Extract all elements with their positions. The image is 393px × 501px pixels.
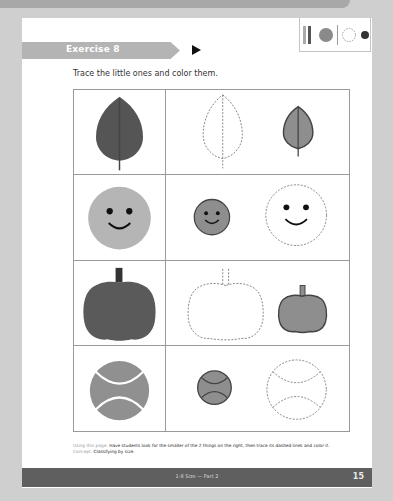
dashed-tennis-ball-icon [267, 360, 326, 419]
exercise-grid [73, 89, 350, 432]
small-leaf-icon [283, 107, 312, 157]
dashed-leaf-icon [203, 95, 242, 168]
using-text: Have students look for the smaller of th… [109, 443, 329, 448]
leaf-large-cell [74, 90, 166, 175]
concept-label: Concept: [73, 449, 92, 454]
large-pumpkin-icon [74, 261, 165, 345]
top-header-band [0, 0, 350, 8]
small-tennis-ball-icon [198, 371, 232, 405]
large-smiley-icon [74, 175, 165, 259]
dashed-trace-circle-icon [341, 27, 357, 43]
face-large-cell [74, 175, 166, 260]
large-tennis-ball-icon [74, 346, 165, 431]
ball-pair [166, 346, 349, 431]
section-title: 1-8 Size — Part 2 [22, 473, 372, 479]
pumpkin-compare-cell [166, 261, 349, 346]
ball-compare-cell [166, 346, 349, 431]
dashed-pumpkin-icon [188, 268, 263, 339]
activity-icons-box [299, 18, 371, 52]
exercise-label: Exercise 8 [66, 44, 120, 54]
face-compare-cell [166, 175, 349, 260]
dashed-smiley-icon [266, 185, 327, 246]
leaf-pair [166, 90, 349, 174]
small-smiley-icon [194, 200, 229, 235]
ball-large-cell [74, 346, 166, 431]
icon-divider [337, 25, 338, 45]
using-label: Using this page: [73, 443, 108, 448]
page-footer: 1-8 Size — Part 2 15 [22, 468, 372, 487]
pumpkin-pair [166, 261, 349, 345]
face-pair [166, 175, 349, 259]
small-dark-circle-icon [360, 30, 370, 40]
color-fill-circle-icon [318, 27, 334, 43]
small-pumpkin-icon [279, 285, 327, 332]
large-leaf-icon [74, 90, 165, 174]
teacher-note: Using this page: Have students look for … [73, 443, 330, 455]
pumpkin-large-cell [74, 261, 166, 346]
pencil-crayon-icon [301, 25, 315, 45]
leaf-compare-cell [166, 90, 349, 175]
concept-text: Classifying by size. [94, 449, 135, 454]
instruction-text: Trace the little ones and color them. [73, 69, 218, 78]
arrow-right-icon [192, 45, 201, 55]
page-number: 15 [353, 472, 364, 481]
